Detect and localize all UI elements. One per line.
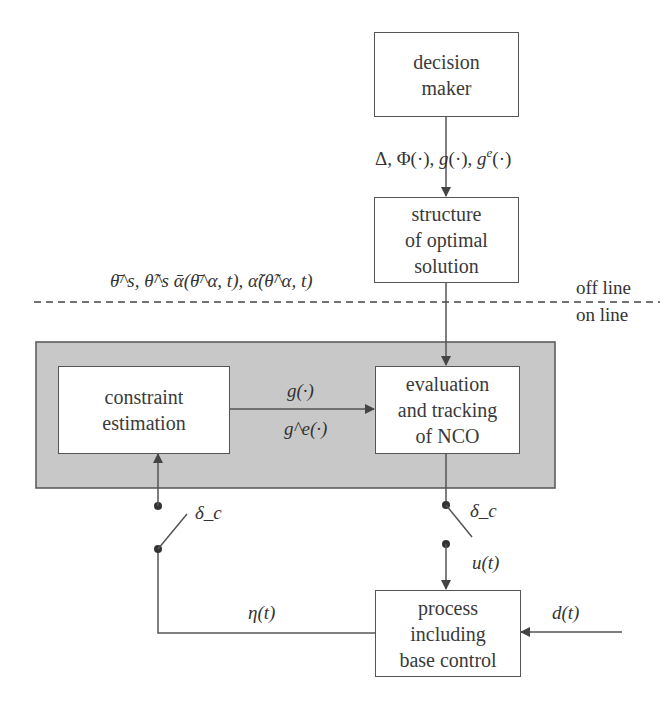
off-line-label: off line [576,277,631,299]
box-label-line: solution [414,253,478,279]
evaluation-tracking-nco-box: evaluation and tracking of NCO [375,366,520,454]
decision-maker-box: decision maker [374,32,519,117]
u-t-label: u(t) [472,552,499,574]
decision-outputs-label: Δ, Φ(·), g(·), ge(·) [375,145,511,170]
on-line-label: on line [576,304,628,326]
box-label-line: of optimal [405,227,488,253]
box-label-line: structure [412,201,482,227]
box-label-line: including [410,621,486,647]
delta-c-left-label: δ_c [195,502,222,524]
delta-c-right-label: δ_c [470,500,497,522]
process-box: process including base control [375,590,521,677]
parameters-label: θ̄^s, θ̃^s ᾱ(θ̄^α, t), α̃(θ̃^α, t) [110,270,313,292]
box-label-line: decision [413,49,480,75]
diagram-canvas: decision maker structure of optimal solu… [0,0,671,701]
box-label-line: maker [422,75,472,101]
structure-of-optimal-solution-box: structure of optimal solution [374,197,519,283]
box-label-line: evaluation [406,371,489,397]
d-t-label: d(t) [552,602,579,624]
ge-label: g^e(·) [284,418,327,440]
switch-left-lever [158,514,187,549]
switch-right-lever [446,505,472,537]
constraint-estimation-box: constraint estimation [58,366,230,454]
box-label-line: and tracking [398,397,497,423]
box-label-line: process [418,595,478,621]
connectors-layer [0,0,671,701]
eta-t-label: η(t) [248,602,275,624]
box-label-line: base control [399,647,496,673]
box-label-line: estimation [102,410,185,436]
box-label-line: constraint [105,384,184,410]
box-label-line: of NCO [416,423,480,449]
g-label: g(·) [287,380,314,402]
